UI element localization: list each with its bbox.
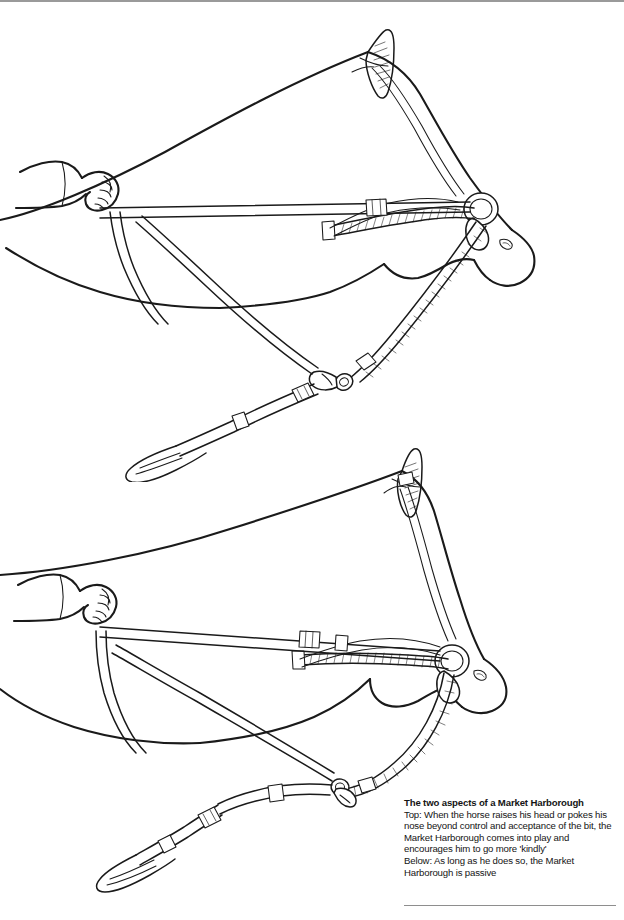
caption-title: The two aspects of a Market Harborough <box>404 797 618 809</box>
caption-paragraph-top: Top: When the horse raises his head or p… <box>404 809 618 855</box>
caption-bottom-rule <box>404 905 616 906</box>
caption-paragraph-below: Below: As long as he does so, the Market… <box>404 855 618 878</box>
figure-top-svg: Line drawing of a horse's head and neck … <box>0 12 624 482</box>
illustration-page: Line drawing of a horse's head and neck … <box>0 0 624 920</box>
figure-top-horse-active: Line drawing of a horse's head and neck … <box>0 12 624 482</box>
figure-caption: The two aspects of a Market Harborough T… <box>404 797 618 878</box>
page-top-rule <box>0 0 624 2</box>
